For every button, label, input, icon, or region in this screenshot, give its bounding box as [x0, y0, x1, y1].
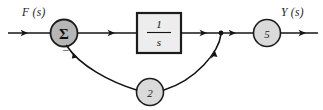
- block-diagram-canvas: F (s) Σ − 1 s: [0, 0, 323, 110]
- integrator-denominator: s: [157, 36, 161, 48]
- integrator-block: 1 s: [137, 13, 181, 53]
- output-gain-block: 5: [254, 20, 281, 47]
- forward-wire-takeoff-to-gain: [221, 30, 254, 36]
- input-signal-path: [8, 30, 51, 36]
- forward-wire-block-to-takeoff: [181, 30, 221, 36]
- feedback-path-left: [67, 46, 137, 91]
- feedback-arrowhead-left-icon: [71, 50, 78, 58]
- feedback-gain-label: 2: [147, 87, 153, 99]
- integrator-numerator: 1: [156, 18, 162, 30]
- summing-junction-symbol: Σ: [59, 26, 69, 42]
- output-signal-label: Y (s): [281, 6, 304, 19]
- block-diagram-svg: F (s) Σ − 1 s: [0, 0, 323, 110]
- feedback-gain-block: 2: [137, 79, 164, 106]
- output-gain-label: 5: [264, 28, 270, 40]
- input-signal-label: F (s): [21, 6, 46, 19]
- forward-wire-summer-to-block: [78, 30, 138, 36]
- output-signal-path: [281, 30, 319, 36]
- feedback-curve-left: [67, 46, 137, 91]
